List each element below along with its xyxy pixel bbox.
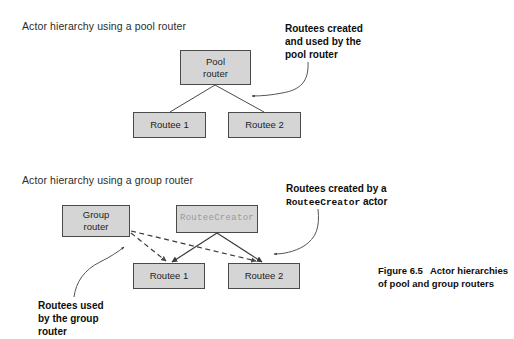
node-pool-routee-2: Routee 2 (228, 112, 301, 138)
figure-caption-number: Figure 6.5 (378, 265, 423, 276)
node-group-routee-1: Routee 1 (133, 263, 205, 289)
figure-caption-line2: of pool and group routers (378, 278, 494, 289)
edge-creator-to-routee-1 (172, 233, 217, 262)
callout-leader-pool (252, 62, 308, 96)
heading-pool-router-hierarchy: Actor hierarchy using a pool router (22, 20, 186, 32)
node-pool-router: Pool router (180, 50, 251, 85)
node-pool-router-label: Pool router (203, 56, 228, 80)
edge-pool-router-to-routee-1 (170, 85, 215, 112)
heading-group-router-hierarchy: Actor hierarchy using a group router (22, 174, 193, 186)
figure-container: Actor hierarchy using a pool router Acto… (0, 0, 514, 339)
node-group-routee-2: Routee 2 (228, 263, 300, 289)
callout-group-routees-used: Routees used by the group router (38, 299, 148, 339)
edge-pool-router-to-routee-2 (215, 85, 264, 112)
node-pool-routee-1: Routee 1 (133, 112, 206, 138)
figure-caption: Figure 6.5Actor hierarchiesof pool and g… (378, 264, 514, 291)
node-routee-creator: RouteeCreator (176, 205, 258, 233)
callout-creator-class-name: RouteeCreator (286, 197, 360, 208)
node-group-router-label: Group router (83, 209, 109, 233)
callout-pool-routees: Routees created and used by the pool rou… (285, 22, 405, 62)
node-routee-creator-label: RouteeCreator (180, 213, 254, 224)
callout-routees-created-by-creator: Routees created by aRouteeCreator actor (286, 182, 446, 210)
node-pool-routee-2-label: Routee 2 (245, 119, 284, 131)
callout-creator-text-pre: Routees created by a (286, 183, 387, 194)
callout-leader-group-used (74, 247, 124, 297)
node-group-router: Group router (62, 205, 130, 237)
group-tree-edges (131, 231, 262, 262)
callout-creator-text-post: actor (360, 196, 387, 207)
node-pool-routee-1-label: Routee 1 (150, 119, 189, 131)
pool-tree-edges (170, 85, 264, 112)
node-group-routee-1-label: Routee 1 (150, 270, 189, 282)
edge-group-router-to-routee-1 (131, 233, 166, 261)
node-group-routee-2-label: Routee 2 (245, 270, 284, 282)
figure-caption-title: Actor hierarchies (430, 265, 508, 276)
callout-leader-creator (274, 209, 318, 254)
